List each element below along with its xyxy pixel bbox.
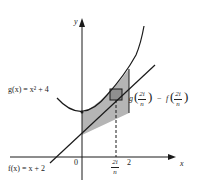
line-f xyxy=(50,65,155,163)
f-function-label: f(x) = x + 2 xyxy=(8,165,45,173)
f-argument: 2i n xyxy=(174,91,182,108)
y-axis-arrow-icon xyxy=(79,18,85,27)
x-axis-label: x xyxy=(180,160,184,168)
numerator: 2i xyxy=(175,91,180,98)
representative-rectangle xyxy=(110,89,122,100)
tick-2-label: 2 xyxy=(127,159,131,167)
y-axis-label: y xyxy=(74,18,78,26)
g-function-label: g(x) = x² + 4 xyxy=(8,86,49,94)
f-name: f xyxy=(166,95,168,103)
x-axis-arrow-icon xyxy=(168,154,176,160)
denominator: n xyxy=(176,101,180,108)
right-paren: ) xyxy=(148,90,152,103)
denominator: n xyxy=(140,101,144,108)
g-intercept-point xyxy=(81,111,84,114)
minus-sign: − xyxy=(157,95,162,103)
tick-numerator: 2i xyxy=(112,159,117,166)
numerator: 2i xyxy=(139,91,144,98)
g-argument: 2i n xyxy=(138,91,146,108)
shaded-area xyxy=(82,69,129,135)
origin-label: 0 xyxy=(74,159,78,167)
g-name: g xyxy=(129,95,133,103)
tick-2i-over-n: 2i n xyxy=(111,159,119,176)
tick-denominator: n xyxy=(113,169,117,176)
right-paren: ) xyxy=(184,90,188,103)
